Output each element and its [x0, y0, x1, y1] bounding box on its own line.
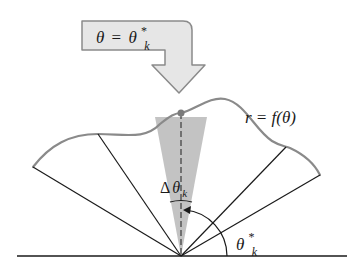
- pointer-arrow: θ = θ * k: [82, 20, 205, 93]
- curve-label: r = f(θ): [245, 108, 296, 127]
- theta-star-arc: [185, 210, 227, 256]
- polar-area-diagram: θ = θ * k r = f(θ) Δ θ k θ * k: [0, 0, 357, 266]
- theta-star-label: θ * k: [236, 226, 259, 259]
- sample-point: [178, 110, 185, 117]
- radial-line-left-outer: [33, 167, 181, 256]
